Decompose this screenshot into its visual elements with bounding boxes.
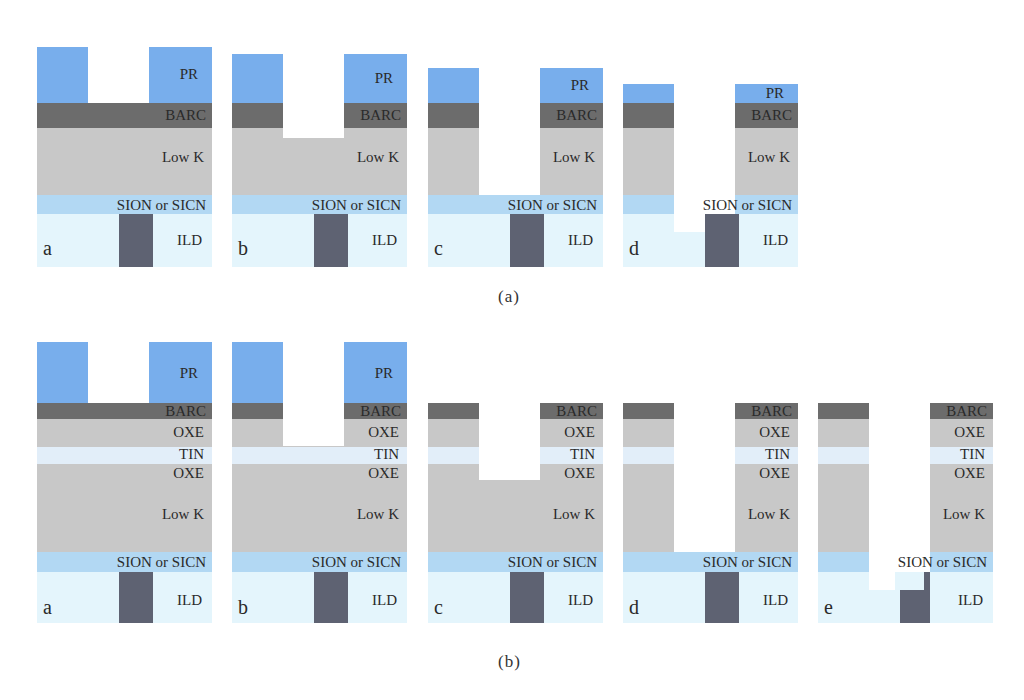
pr-left — [37, 342, 88, 403]
via-metal-top — [924, 572, 930, 590]
trench — [869, 403, 930, 572]
ild-label: ILD — [372, 593, 397, 608]
panel-letter: d — [629, 597, 639, 617]
lowk-label: Low K — [162, 507, 204, 522]
oxe-label: OXE — [564, 425, 595, 440]
lowk-label: Low K — [553, 507, 595, 522]
oxe-label: OXE — [368, 466, 399, 481]
sion-label: SION or SICN — [117, 555, 206, 570]
sion-label: SION or SICN — [312, 555, 401, 570]
tin-label: TIN — [765, 447, 790, 462]
panel-letter: c — [434, 597, 443, 617]
tin-label: TIN — [960, 447, 985, 462]
figure-b-panel-b: PRBARCOXETINOXELow KSION or SICNILDb — [232, 0, 407, 630]
figure-b-caption: (b) — [498, 653, 521, 670]
sion-label: SION or SICN — [508, 555, 597, 570]
lowk-label: Low K — [943, 507, 985, 522]
oxe-label: OXE — [759, 425, 790, 440]
pr-left — [232, 342, 283, 403]
oxe-label: OXE — [368, 425, 399, 440]
oxe-label: OXE — [564, 466, 595, 481]
trench — [674, 403, 735, 552]
barc-label: BARC — [556, 404, 597, 419]
panel-letter: a — [43, 597, 52, 617]
lowk-label: Low K — [748, 507, 790, 522]
sion-label: SION or SICN — [703, 555, 792, 570]
trench — [479, 403, 540, 480]
via-metal — [510, 572, 544, 623]
barc-label: BARC — [751, 404, 792, 419]
figure-b-panel-c: BARCOXETINOXELow KSION or SICNILDc — [428, 0, 603, 630]
oxe-label: OXE — [173, 425, 204, 440]
trench — [283, 403, 344, 446]
via-metal — [705, 572, 739, 623]
tin-label: TIN — [374, 447, 399, 462]
oxe-label: OXE — [954, 425, 985, 440]
via-metal — [119, 572, 153, 623]
via-metal — [314, 572, 348, 623]
figure-b-panel-a: PRBARCOXETINOXELow KSION or SICNILDa — [37, 0, 212, 630]
pr-label: PR — [375, 366, 393, 381]
barc-label: BARC — [360, 404, 401, 419]
trench-ild-open — [869, 572, 895, 590]
oxe-label: OXE — [173, 466, 204, 481]
panel-letter: e — [824, 597, 833, 617]
figure-b-panel-d: BARCOXETINOXELow KSION or SICNILDd — [623, 0, 798, 630]
ild-label: ILD — [568, 593, 593, 608]
tin-label: TIN — [179, 447, 204, 462]
lowk-label: Low K — [357, 507, 399, 522]
barc-label: BARC — [946, 404, 987, 419]
pr-label: PR — [180, 366, 198, 381]
barc-label: BARC — [165, 404, 206, 419]
ild-label: ILD — [958, 593, 983, 608]
ild-label: ILD — [763, 593, 788, 608]
tin-label: TIN — [570, 447, 595, 462]
panel-letter: b — [238, 597, 248, 617]
via-metal — [900, 590, 930, 623]
oxe-label: OXE — [759, 466, 790, 481]
sion-label: SION or SICN — [898, 555, 987, 570]
figure-b-panel-e: BARCOXETINOXELow KSION or SICNILDe — [818, 0, 993, 630]
oxe-label: OXE — [954, 466, 985, 481]
ild-label: ILD — [177, 593, 202, 608]
